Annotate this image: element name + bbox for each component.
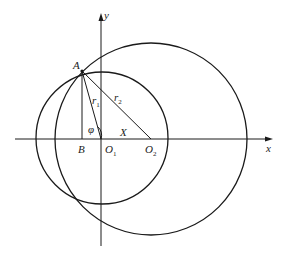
x-axis-label: x [266,143,271,154]
r2-label: r2 [114,92,122,106]
point-O2-label: O2 [145,144,156,158]
X-label: X [120,127,127,138]
y-axis-label: y [104,10,109,21]
two-circles-diagram: y x A B O1 O2 r1 r2 X φ [0,0,281,258]
r1-subscript: 1 [96,101,100,109]
diagram-canvas [0,0,281,258]
O2-letter: O [145,143,153,155]
x-axis-arrow-icon [265,137,273,142]
r2-subscript: 2 [118,98,122,106]
point-B-label: B [78,144,85,155]
y-axis-arrow-icon [99,13,104,21]
O2-subscript: 2 [153,150,157,158]
r1-label: r1 [92,95,100,109]
circle-O1 [36,72,168,204]
point-O1-label: O1 [105,144,116,158]
O1-letter: O [105,143,113,155]
point-A [80,69,83,72]
point-A-label: A [73,60,80,71]
O1-subscript: 1 [113,150,117,158]
angle-phi-label: φ [88,124,94,135]
